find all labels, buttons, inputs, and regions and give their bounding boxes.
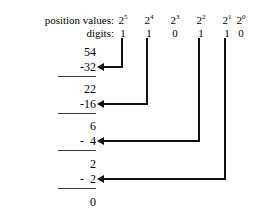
connector-vline-2 (198, 38, 200, 142)
connector-hline-0 (102, 66, 123, 68)
binary-conversion-diagram: position values: 25 24 23 22 21 20 digit… (0, 0, 254, 223)
remainder-2: 6 (48, 120, 96, 133)
position-value-col-2: 23 (164, 14, 186, 26)
digit-col-0: 1 (112, 27, 134, 39)
position-value-col-0: 25 (112, 14, 134, 26)
digit-col-5: 0 (230, 27, 252, 39)
subtrahend-2: - 4 (48, 135, 96, 148)
remainder-1: 22 (48, 83, 96, 96)
connector-hline-3 (102, 178, 226, 180)
connector-vline-1 (146, 38, 148, 105)
position-values-label: position values: (6, 14, 114, 26)
connector-vline-0 (121, 38, 123, 68)
digit-col-2: 0 (164, 27, 186, 39)
position-value-col-5: 20 (230, 14, 252, 26)
rule-2 (58, 150, 96, 151)
connector-arrowhead-0 (97, 63, 104, 71)
connector-hline-1 (102, 103, 148, 105)
position-value-exponent-1: 4 (150, 13, 154, 21)
rule-0 (58, 76, 96, 77)
position-value-exponent-5: 0 (242, 13, 246, 21)
connector-hline-2 (102, 140, 200, 142)
connector-arrowhead-3 (97, 175, 104, 183)
subtrahend-0: -32 (48, 61, 96, 74)
subtrahend-1: -16 (48, 98, 96, 111)
connector-arrowhead-2 (97, 137, 104, 145)
remainder-0: 54 (48, 46, 96, 59)
rule-3 (58, 188, 96, 189)
digit-col-3: 1 (190, 27, 212, 39)
connector-arrowhead-1 (97, 100, 104, 108)
remainder-3: 2 (48, 158, 96, 171)
subtrahend-3: - 2 (48, 173, 96, 186)
digits-label: digits: (6, 27, 114, 39)
connector-vline-3 (224, 38, 226, 180)
digit-col-1: 1 (138, 27, 160, 39)
position-value-exponent-2: 3 (176, 13, 180, 21)
position-value-col-1: 24 (138, 14, 160, 26)
position-value-exponent-0: 5 (124, 13, 128, 21)
final-remainder: 0 (48, 196, 96, 209)
position-value-exponent-3: 2 (202, 13, 206, 21)
rule-1 (58, 113, 96, 114)
position-value-col-3: 22 (190, 14, 212, 26)
